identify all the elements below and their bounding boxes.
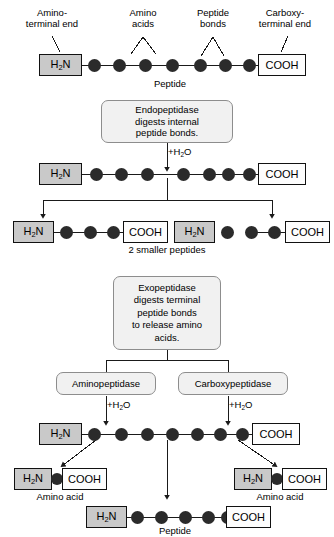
leader-amino-terminal	[52, 36, 60, 52]
residue	[179, 511, 192, 524]
residue	[131, 511, 144, 524]
residue	[221, 226, 234, 239]
amino-terminus-box: H2N	[39, 423, 82, 445]
caption-peptide-top: Peptide	[130, 79, 210, 90]
carboxy-terminus-box: COOH	[226, 506, 271, 528]
amino-terminus-box: H2N	[39, 163, 82, 185]
residue	[268, 226, 281, 239]
residue	[214, 428, 227, 441]
residue	[222, 168, 235, 181]
amino-terminus-box: H2N	[174, 221, 215, 243]
residue	[139, 59, 152, 72]
carboxy-terminus-box: COOH	[282, 468, 327, 490]
residue	[84, 226, 97, 239]
callout-peptide-bonds: Peptide bonds	[183, 8, 243, 29]
residue	[115, 168, 128, 181]
leader-carboxy-terminal	[281, 36, 288, 52]
residue	[166, 59, 179, 72]
caption-peptide-bottom: Peptide	[135, 526, 215, 537]
amino-terminus-box: H2N	[39, 54, 82, 76]
residue	[115, 428, 128, 441]
residue	[141, 428, 154, 441]
residue	[60, 226, 73, 239]
residue	[191, 428, 204, 441]
water-label-aminopeptidase: +H2O	[107, 400, 147, 411]
residue	[219, 59, 232, 72]
residue	[88, 59, 101, 72]
residue	[177, 168, 190, 181]
residue	[202, 511, 215, 524]
carboxy-terminus-box: COOH	[258, 163, 306, 185]
callout-carboxy-terminal-end: Carboxy- terminal end	[238, 8, 332, 29]
residue	[236, 428, 249, 441]
residue	[88, 428, 101, 441]
residue	[243, 168, 256, 181]
residue	[141, 168, 154, 181]
residue	[245, 226, 258, 239]
amino-terminus-box: H2N	[234, 468, 272, 490]
leader-peptide-bonds	[201, 37, 224, 56]
amino-terminus-box: H2N	[14, 468, 52, 490]
water-label-endopeptidase: +H2O	[168, 147, 208, 158]
exopeptidase-box: Exopeptidase digests terminal peptide bo…	[113, 276, 221, 350]
residue	[107, 226, 120, 239]
callout-amino-terminal-end: Amino- terminal end	[4, 8, 100, 29]
carboxy-terminus-box: COOH	[258, 54, 306, 76]
residue	[243, 59, 256, 72]
carboxy-terminus-box: COOH	[123, 221, 168, 243]
residue	[90, 168, 103, 181]
carboxypeptidase-box: Carboxypeptidase	[178, 372, 288, 395]
residue	[203, 168, 216, 181]
residue	[166, 428, 179, 441]
endopeptidase-box: Endopeptidase digests internal peptide b…	[101, 100, 233, 143]
leader-amino-acids	[131, 37, 156, 54]
residue	[113, 59, 126, 72]
carboxy-terminus-box: COOH	[252, 423, 300, 445]
carboxy-terminus-box: COOH	[62, 468, 107, 490]
carboxy-terminus-box: COOH	[285, 221, 330, 243]
residue	[194, 59, 207, 72]
caption-two-smaller-peptides: 2 smaller peptides	[107, 245, 227, 256]
amino-terminus-box: H2N	[13, 221, 54, 243]
aminopeptidase-box: Aminopeptidase	[56, 372, 156, 395]
water-label-carboxypeptidase: +H2O	[229, 400, 269, 411]
callout-amino-acids: Amino acids	[113, 8, 173, 29]
residue	[155, 511, 168, 524]
caption-amino-acid-left: Amino acid	[10, 492, 110, 503]
caption-amino-acid-right: Amino acid	[230, 492, 330, 503]
amino-terminus-box: H2N	[86, 506, 127, 528]
